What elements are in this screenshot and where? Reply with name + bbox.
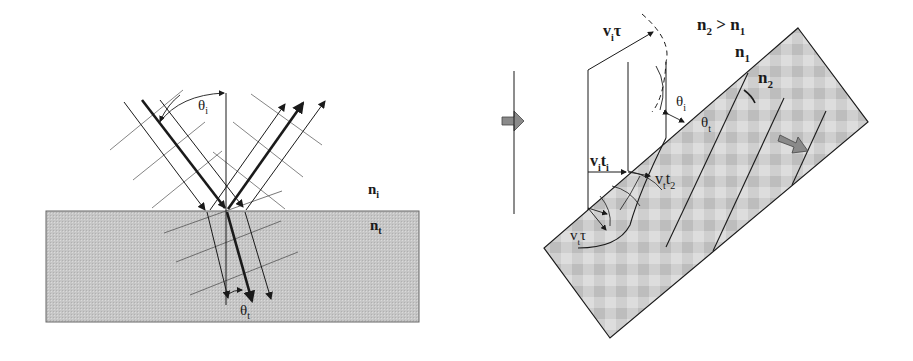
- vi-ti-label: viti: [590, 152, 609, 173]
- theta-i-angle-marker: [668, 114, 684, 122]
- theta-i-label: θi: [198, 97, 208, 116]
- incident-ray-left: [124, 102, 205, 210]
- right-figure: n2 > n1 n1 n2 viτ viti vtt2 vtτ θi θt: [514, 14, 868, 338]
- left-figure: θi θt ni nt: [46, 90, 419, 322]
- n-i-label: ni: [368, 181, 379, 200]
- diagram-canvas: θi θt ni nt: [0, 0, 913, 361]
- condition-label: n2 > n1: [697, 15, 745, 37]
- reflected-ray-right: [246, 101, 325, 210]
- theta-i-arc: [160, 93, 224, 122]
- incident-ray-main: [142, 100, 225, 208]
- vi-tau-label: viτ: [603, 22, 622, 43]
- n1-label: n1: [735, 42, 750, 64]
- transition-arrow-icon: [502, 111, 524, 131]
- tilted-medium-block: [544, 28, 868, 338]
- theta-i-label: θi: [676, 93, 686, 113]
